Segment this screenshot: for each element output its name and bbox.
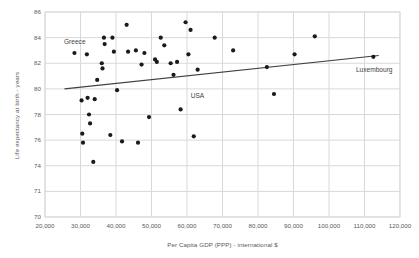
data-point xyxy=(88,121,92,125)
data-point xyxy=(85,52,89,56)
data-point xyxy=(103,42,107,46)
data-point xyxy=(171,73,175,77)
y-axis-tick-label: 84 xyxy=(19,34,41,41)
data-point xyxy=(371,55,375,59)
data-points xyxy=(72,20,375,164)
chart-canvas xyxy=(0,0,419,258)
data-point xyxy=(125,23,129,27)
x-axis-tick-label: 30,000 xyxy=(61,222,101,229)
x-axis-tick-label: 20,000 xyxy=(25,222,65,229)
data-point xyxy=(169,61,173,65)
annotation-usa: USA xyxy=(191,92,205,99)
data-point xyxy=(159,36,163,40)
x-axis-tick-label: 50,000 xyxy=(132,222,172,229)
data-point xyxy=(139,62,143,66)
trend-line xyxy=(65,56,379,89)
data-point xyxy=(102,36,106,40)
data-point xyxy=(292,52,296,56)
data-point xyxy=(183,20,187,24)
data-point xyxy=(115,88,119,92)
data-point xyxy=(186,52,190,56)
x-axis-tick-label: 70,000 xyxy=(203,222,243,229)
y-axis-tick-label: 86 xyxy=(19,8,41,15)
data-point xyxy=(108,133,112,137)
data-point xyxy=(136,141,140,145)
y-axis-tick-label: 78 xyxy=(19,111,41,118)
x-axis-tick-label: 80,000 xyxy=(238,222,278,229)
data-point xyxy=(188,28,192,32)
y-axis-tick-label: 80 xyxy=(19,85,41,92)
data-point xyxy=(100,66,104,70)
data-point xyxy=(179,107,183,111)
data-point xyxy=(213,36,217,40)
y-axis-tick-label: 70 xyxy=(19,213,41,220)
y-axis-tick-label: 71 xyxy=(19,187,41,194)
data-point xyxy=(231,48,235,52)
data-point xyxy=(93,97,97,101)
annotation-greece: Greece xyxy=(64,38,86,45)
data-point xyxy=(86,96,90,100)
data-point xyxy=(95,78,99,82)
data-point xyxy=(265,65,269,69)
data-point xyxy=(175,60,179,64)
y-axis-tick-label: 82 xyxy=(19,59,41,66)
x-axis-tick-label: 60,000 xyxy=(167,222,207,229)
x-axis-tick-label: 90,000 xyxy=(274,222,314,229)
data-point xyxy=(112,50,116,54)
x-axis-tick-label: 40,000 xyxy=(96,222,136,229)
x-axis-tick-label: 110,000 xyxy=(345,222,385,229)
scatter-chart: 707174767880828486 20,00030,00040,00050,… xyxy=(0,0,419,258)
y-axis-title: Life expectancy at birth - years xyxy=(13,56,20,176)
data-point xyxy=(80,132,84,136)
data-point xyxy=(110,36,114,40)
data-point xyxy=(155,60,159,64)
data-point xyxy=(91,160,95,164)
data-point xyxy=(126,50,130,54)
data-point xyxy=(313,34,317,38)
data-point xyxy=(272,92,276,96)
x-axis-tick-label: 100,000 xyxy=(309,222,349,229)
data-point xyxy=(162,43,166,47)
y-axis-tick-label: 76 xyxy=(19,136,41,143)
x-axis-title: Per Capita GDP (PPP) - international $ xyxy=(45,241,400,248)
data-point xyxy=(100,61,104,65)
annotation-luxembourg: Luxembourg xyxy=(356,66,393,73)
gridlines xyxy=(45,12,400,217)
data-point xyxy=(142,51,146,55)
data-point xyxy=(120,139,124,143)
data-point xyxy=(72,51,76,55)
data-point xyxy=(147,115,151,119)
data-point xyxy=(196,68,200,72)
data-point xyxy=(134,48,138,52)
data-point xyxy=(87,112,91,116)
data-point xyxy=(79,98,83,102)
data-point xyxy=(81,141,85,145)
data-point xyxy=(192,134,196,138)
x-axis-tick-label: 120,000 xyxy=(380,222,419,229)
y-axis-tick-label: 74 xyxy=(19,162,41,169)
